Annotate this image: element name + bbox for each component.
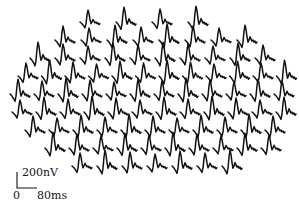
waveform-trace — [255, 45, 275, 64]
waveform-trace — [45, 132, 65, 156]
waveform-trace — [265, 116, 285, 137]
waveform-trace — [211, 28, 231, 46]
waveform-trace — [80, 10, 100, 28]
waveform-trace — [141, 135, 161, 154]
waveform-trace — [30, 42, 50, 66]
waveform-trace — [81, 28, 101, 46]
waveform-trace — [133, 27, 153, 46]
waveform-trace — [69, 134, 89, 155]
waveform-trace — [152, 9, 172, 28]
waveform-trace — [112, 61, 132, 83]
waveform-trace — [97, 150, 117, 174]
waveform-trace — [228, 98, 248, 119]
waveform-trace — [58, 78, 78, 102]
waveform-trace — [145, 116, 165, 137]
waveform-trace — [250, 79, 270, 101]
time-scale-label: 80ms — [37, 190, 67, 201]
waveform-trace — [121, 114, 141, 138]
waveform-trace — [237, 25, 257, 47]
waveform-trace — [165, 132, 185, 156]
waveform-trace — [80, 46, 100, 64]
waveform-trace — [65, 62, 85, 83]
waveform-trace — [253, 63, 273, 82]
waveform-trace — [169, 118, 189, 136]
waveform-trace — [106, 82, 126, 100]
waveform-trace — [261, 135, 281, 154]
waveform-trace — [226, 82, 246, 100]
waveform-trace — [89, 64, 109, 82]
waveform-trace — [197, 153, 217, 172]
amplitude-scale-label: 200nV — [22, 167, 58, 178]
waveform-trace — [108, 98, 128, 119]
waveform-trace — [72, 153, 92, 172]
waveform-trace — [222, 150, 242, 174]
waveform-trace — [206, 64, 226, 82]
waveform-trace — [55, 26, 75, 47]
waveform-trace — [277, 60, 297, 84]
waveform-trace — [97, 117, 117, 136]
waveform-trace — [217, 117, 237, 136]
waveform-trace — [132, 100, 152, 118]
waveform-trace — [159, 60, 179, 84]
waveform-trace — [230, 43, 250, 65]
waveform-trace — [205, 46, 225, 64]
waveform-trace — [49, 118, 69, 136]
waveform-trace — [93, 136, 113, 154]
waveform-trace — [10, 79, 30, 101]
waveform-trace — [107, 25, 127, 47]
waveform-trace — [42, 60, 62, 84]
waveform-trace — [55, 44, 75, 65]
waveform-trace — [147, 154, 167, 172]
waveform-trace — [116, 7, 136, 29]
waveform-trace — [230, 61, 250, 83]
waveform-trace — [130, 45, 150, 64]
origin-label: 0 — [13, 190, 20, 201]
waveform-trace — [252, 100, 272, 118]
waveform-trace — [12, 100, 32, 118]
waveform-trace — [122, 152, 142, 173]
waveform-trace — [25, 116, 45, 137]
waveform-trace — [172, 151, 192, 173]
waveform-trace — [241, 114, 261, 138]
waveform-trace — [189, 134, 209, 155]
waveform-trace — [188, 6, 208, 30]
waveform-trace — [105, 43, 125, 65]
waveform-traces — [10, 6, 297, 174]
